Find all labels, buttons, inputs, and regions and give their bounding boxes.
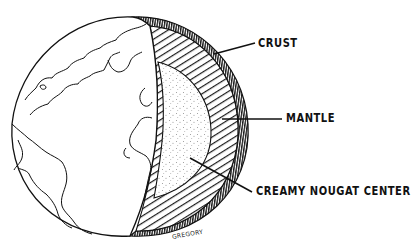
creamy-nougat-center-label: CREAMY NOUGAT CENTER (256, 184, 411, 198)
crust-leader-line (214, 43, 255, 54)
mantle-label: MANTLE (286, 111, 335, 125)
earth-cutaway-drawing (0, 0, 418, 252)
crust-label: CRUST (258, 36, 298, 50)
globe-face (12, 17, 158, 236)
